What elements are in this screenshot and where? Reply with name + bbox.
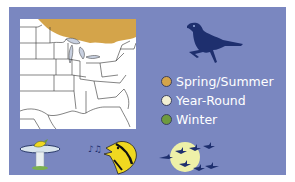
migration-moon-icon <box>159 142 223 180</box>
range-map <box>20 19 136 129</box>
legend-item-spring-summer: Spring/Summer <box>161 72 274 91</box>
winter-swatch-icon <box>161 114 172 125</box>
spring-summer-swatch-icon <box>161 76 172 87</box>
us-map-icon <box>20 19 136 129</box>
bird-bath-icon <box>18 138 62 176</box>
legend: Spring/Summer Year-Round Winter <box>161 72 274 129</box>
svg-text:♪♫: ♪♫ <box>88 144 102 154</box>
singing-bird-icon: ♪♫ <box>88 140 140 180</box>
legend-label: Spring/Summer <box>176 72 274 91</box>
bird-silhouette-icon <box>185 20 245 70</box>
range-map-panel: Spring/Summer Year-Round Winter ♪♫ <box>9 7 286 175</box>
legend-item-winter: Winter <box>161 110 274 129</box>
year-round-swatch-icon <box>161 95 172 106</box>
legend-label: Year-Round <box>176 91 246 110</box>
legend-label: Winter <box>176 110 217 129</box>
legend-item-year-round: Year-Round <box>161 91 274 110</box>
